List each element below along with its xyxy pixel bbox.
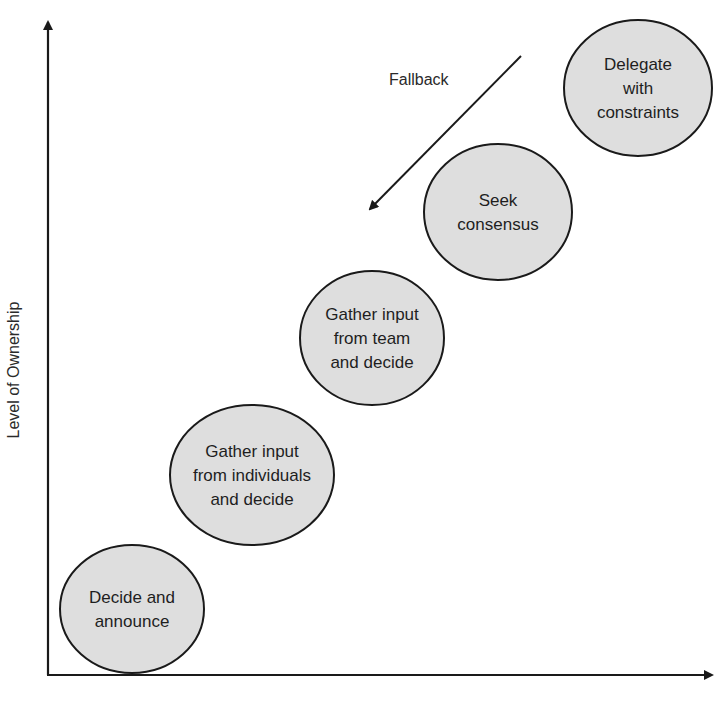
node-label-line: Delegate [604, 55, 672, 74]
node-gather-input-team: Gather inputfrom teamand decide [300, 271, 444, 405]
node-label-line: Gather input [205, 442, 299, 461]
node-seek-consensus: Seekconsensus [424, 144, 572, 280]
node-ellipse [60, 545, 204, 673]
node-label-line: and decide [330, 353, 413, 372]
node-label-line: with [622, 79, 653, 98]
node-label-line: Seek [479, 191, 518, 210]
node-label-line: from team [334, 329, 411, 348]
y-axis-label: Level of Ownership [5, 301, 22, 438]
node-label-line: constraints [597, 103, 679, 122]
node-label-line: announce [95, 612, 170, 631]
ownership-levels: Decide andannounceGather inputfrom indiv… [60, 20, 712, 673]
node-label-line: from individuals [193, 466, 311, 485]
node-ellipse [424, 144, 572, 280]
node-gather-input-individuals: Gather inputfrom individualsand decide [170, 405, 334, 545]
fallback-label: Fallback [389, 71, 450, 88]
node-label-line: Gather input [325, 305, 419, 324]
node-label-line: and decide [210, 490, 293, 509]
node-delegate-with-constraints: Delegatewithconstraints [564, 20, 712, 156]
decision-ownership-diagram: Level of Ownership Fallback Decide andan… [0, 0, 727, 718]
node-decide-and-announce: Decide andannounce [60, 545, 204, 673]
node-label-line: consensus [457, 215, 538, 234]
node-label-line: Decide and [89, 588, 175, 607]
